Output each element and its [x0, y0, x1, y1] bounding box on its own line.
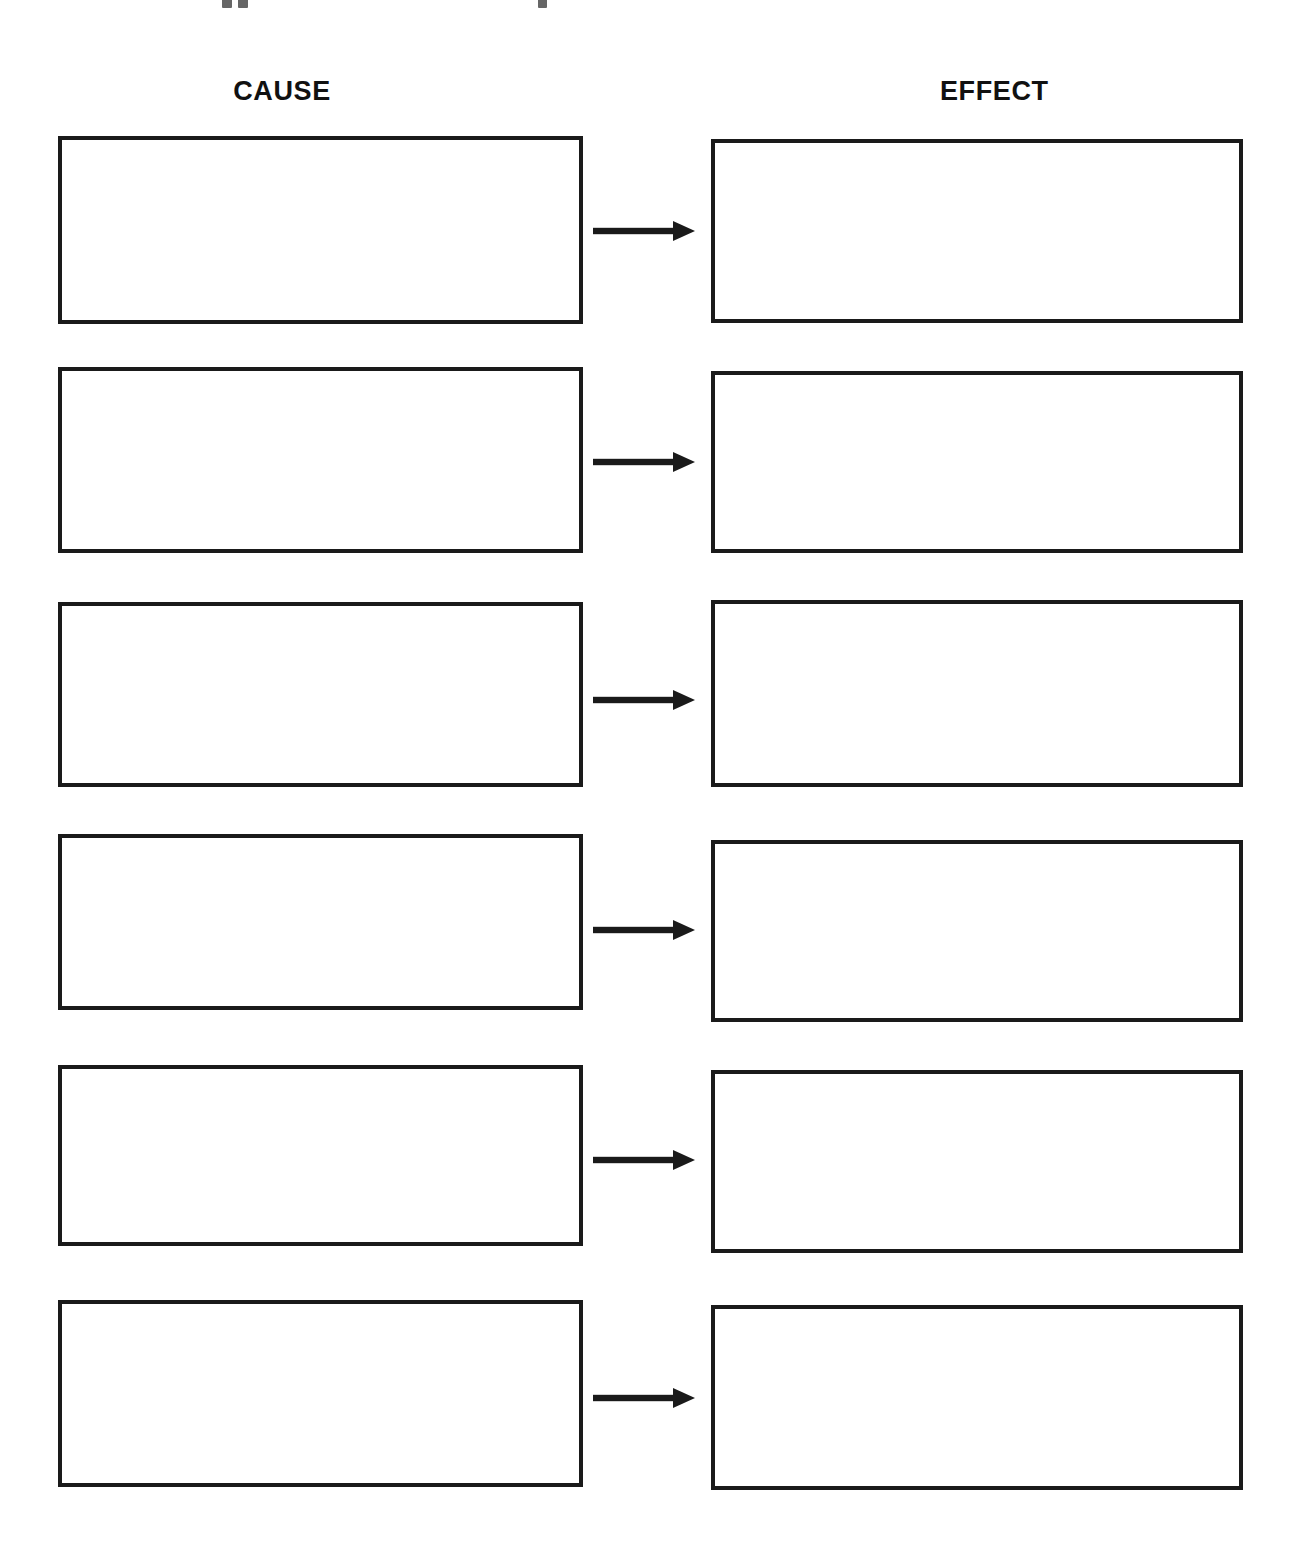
cause-to-effect-arrow-1: [593, 216, 695, 246]
effect-box-4[interactable]: [711, 840, 1243, 1022]
cause-to-effect-arrow-5: [593, 1145, 695, 1175]
page-top-text-remnant: [538, 0, 547, 8]
cause-box-3[interactable]: [58, 602, 583, 787]
column-heading-cause: CAUSE: [232, 78, 332, 105]
cause-box-6[interactable]: [58, 1300, 583, 1487]
worksheet-page: CAUSE EFFECT: [0, 0, 1305, 1556]
page-top-text-remnant: [238, 0, 248, 8]
effect-box-6[interactable]: [711, 1305, 1243, 1490]
column-heading-effect: EFFECT: [940, 78, 1044, 105]
cause-box-1[interactable]: [58, 136, 583, 324]
cause-to-effect-arrow-3: [593, 685, 695, 715]
effect-box-5[interactable]: [711, 1070, 1243, 1253]
cause-to-effect-arrow-6: [593, 1383, 695, 1413]
cause-box-4[interactable]: [58, 834, 583, 1010]
cause-box-5[interactable]: [58, 1065, 583, 1246]
cause-box-2[interactable]: [58, 367, 583, 553]
cause-to-effect-arrow-2: [593, 447, 695, 477]
page-top-text-remnant: [222, 0, 232, 8]
effect-box-1[interactable]: [711, 139, 1243, 323]
cause-to-effect-arrow-4: [593, 915, 695, 945]
effect-box-2[interactable]: [711, 371, 1243, 553]
effect-box-3[interactable]: [711, 600, 1243, 787]
